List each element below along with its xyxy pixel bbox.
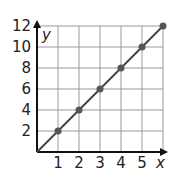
y-axis-arrow-icon bbox=[33, 20, 41, 28]
x-tick-label: 3 bbox=[95, 154, 105, 172]
data-point-marker bbox=[76, 107, 83, 114]
data-point-marker bbox=[97, 86, 104, 93]
y-tick-label: 8 bbox=[21, 59, 31, 77]
y-axis-label: y bbox=[41, 26, 52, 44]
data-point-marker bbox=[118, 65, 125, 72]
x-tick-label: 1 bbox=[53, 154, 63, 172]
y-tick-label: 4 bbox=[21, 101, 31, 119]
data-point-marker bbox=[55, 128, 62, 135]
x-tick-label: 2 bbox=[74, 154, 84, 172]
x-axis-label: x bbox=[155, 154, 165, 172]
y-tick-label: 6 bbox=[21, 80, 31, 98]
line-chart: 1234524681012xy bbox=[0, 0, 173, 173]
data-point-marker bbox=[160, 23, 167, 30]
y-tick-label: 10 bbox=[12, 38, 31, 56]
x-tick-label: 4 bbox=[116, 154, 126, 172]
y-tick-label: 2 bbox=[21, 122, 31, 140]
x-tick-label: 5 bbox=[137, 154, 147, 172]
y-tick-label: 12 bbox=[12, 17, 31, 35]
data-point-marker bbox=[139, 44, 146, 51]
